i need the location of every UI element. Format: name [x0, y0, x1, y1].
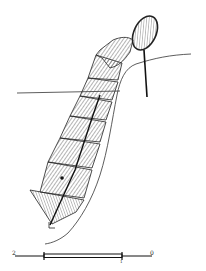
scale-label-0: 0 — [150, 249, 154, 256]
scale-bar: 2 1 0 — [12, 249, 154, 264]
hoop-mouth — [127, 12, 162, 97]
pole — [144, 50, 147, 97]
net-body — [30, 37, 133, 228]
scale-label-1: 1 — [120, 259, 123, 264]
scale-label-2: 2 — [12, 249, 16, 256]
fyke-net-illustration: 2 1 0 — [0, 0, 206, 271]
